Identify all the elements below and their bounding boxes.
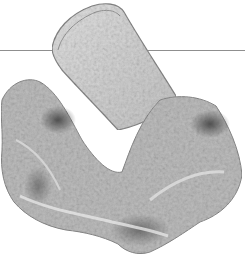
shadow-left <box>40 106 76 134</box>
photo-canvas <box>0 0 245 263</box>
shadow-right <box>190 110 230 138</box>
lace-fabric-image <box>0 0 245 263</box>
shadow-bottom <box>110 214 170 246</box>
